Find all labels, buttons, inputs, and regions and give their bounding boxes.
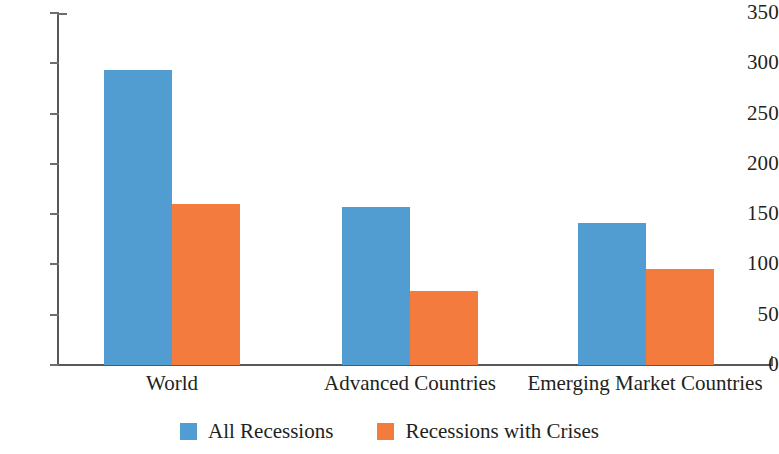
legend-label: Recessions with Crises bbox=[405, 420, 599, 442]
bar-all-recessions-advanced-countries bbox=[342, 207, 410, 365]
bar-all-recessions-emerging-market-countries bbox=[578, 223, 646, 365]
bar-recessions-with-crises-emerging-market-countries bbox=[646, 269, 714, 365]
bar-recessions-with-crises-advanced-countries bbox=[410, 291, 478, 365]
bar-all-recessions-world bbox=[104, 70, 172, 365]
legend-item-recessions-with-crises[interactable]: Recessions with Crises bbox=[377, 420, 599, 442]
category-label-emerging-market-countries: Emerging Market Countries bbox=[475, 371, 779, 395]
legend: All RecessionsRecessions with Crises bbox=[0, 420, 779, 442]
bar-chart: 350300250200150100500 WorldAdvanced Coun… bbox=[0, 0, 779, 454]
legend-swatch-icon bbox=[180, 423, 197, 440]
legend-swatch-icon bbox=[377, 423, 394, 440]
bars-layer bbox=[0, 13, 779, 365]
legend-item-all-recessions[interactable]: All Recessions bbox=[180, 420, 333, 442]
bar-recessions-with-crises-world bbox=[172, 204, 240, 365]
legend-label: All Recessions bbox=[208, 420, 333, 442]
